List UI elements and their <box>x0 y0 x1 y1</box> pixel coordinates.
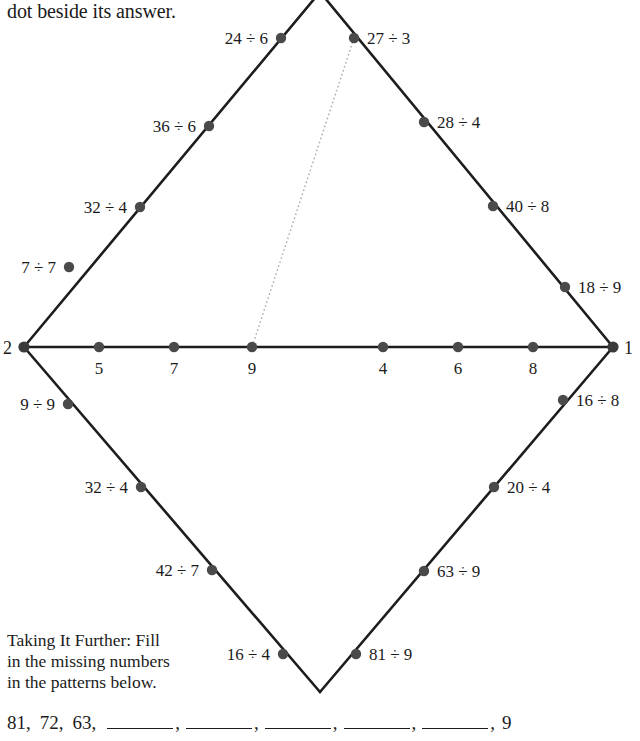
expression-label: 32 ÷ 4 <box>85 478 129 497</box>
pattern-given-number: 63, <box>73 712 97 734</box>
pattern-blank[interactable] <box>422 714 488 729</box>
worksheet-page: dot beside its answer. 24 ÷ 627 ÷ 336 ÷ … <box>0 0 640 741</box>
edge-upper-left <box>24 0 320 347</box>
vertex-label: 1 <box>624 338 633 358</box>
expression-label: 7 ÷ 7 <box>21 258 56 277</box>
answer-label: 9 <box>248 359 257 378</box>
answer-label: 7 <box>170 359 179 378</box>
pattern-given-number: 81, <box>7 712 31 734</box>
expression-label: 20 ÷ 4 <box>507 478 551 497</box>
expression-label: 16 ÷ 8 <box>576 391 619 410</box>
expression-label: 9 ÷ 9 <box>20 395 55 414</box>
answer-label: 4 <box>379 359 388 378</box>
expression-label: 24 ÷ 6 <box>225 29 268 48</box>
pattern-blank[interactable] <box>344 714 410 729</box>
answer-dot[interactable] <box>247 342 257 352</box>
expression-dot[interactable] <box>488 201 498 211</box>
pattern-blank[interactable] <box>265 714 331 729</box>
pattern-blank[interactable] <box>186 714 252 729</box>
expression-label: 32 ÷ 4 <box>84 198 128 217</box>
answer-dot[interactable] <box>378 342 388 352</box>
expression-label: 18 ÷ 9 <box>578 278 621 297</box>
expression-dot[interactable] <box>489 482 499 492</box>
expression-dot[interactable] <box>349 33 359 43</box>
edge-lower-right <box>320 347 613 692</box>
vertex-label: 2 <box>3 338 12 358</box>
expression-dot[interactable] <box>558 395 568 405</box>
expression-dot[interactable] <box>560 282 570 292</box>
expression-label: 42 ÷ 7 <box>156 561 200 580</box>
pattern-comma: , <box>333 712 338 734</box>
answer-dot[interactable] <box>453 342 463 352</box>
expression-dot[interactable] <box>64 262 74 272</box>
pattern-comma: , <box>254 712 259 734</box>
expression-dot[interactable] <box>204 121 214 131</box>
expression-label: 16 ÷ 4 <box>227 645 271 664</box>
expression-label: 36 ÷ 6 <box>153 117 196 136</box>
expression-dot[interactable] <box>278 649 288 659</box>
expression-label: 81 ÷ 9 <box>369 645 412 664</box>
expression-label: 28 ÷ 4 <box>437 113 481 132</box>
further-line-2: in the missing numbers <box>7 651 170 672</box>
further-line-1: Taking It Further: Fill <box>7 630 170 651</box>
answer-dot[interactable] <box>528 342 538 352</box>
number-pattern-row: 81,72,63,,,,,,9 <box>7 712 512 734</box>
pattern-comma: , <box>412 712 417 734</box>
expression-dot[interactable] <box>207 565 217 575</box>
expression-dot[interactable] <box>419 117 429 127</box>
pattern-given-number: 72, <box>40 712 64 734</box>
further-line-3: in the patterns below. <box>7 672 170 693</box>
answer-label: 8 <box>529 359 538 378</box>
expression-label: 40 ÷ 8 <box>506 197 549 216</box>
edge-upper-right <box>320 0 613 347</box>
expression-dot[interactable] <box>63 399 73 409</box>
pattern-blank[interactable] <box>107 714 173 729</box>
answer-label: 6 <box>454 359 463 378</box>
answer-dot[interactable] <box>94 342 104 352</box>
expression-dot[interactable] <box>135 202 145 212</box>
taking-it-further-block: Taking It Further: Fill in the missing n… <box>7 630 170 693</box>
vertex-dot[interactable] <box>607 341 618 352</box>
expression-dot[interactable] <box>351 649 361 659</box>
pattern-end-number: 9 <box>502 712 512 734</box>
pattern-comma: , <box>175 712 180 734</box>
expression-label: 63 ÷ 9 <box>437 562 480 581</box>
pattern-comma: , <box>490 712 495 734</box>
vertex-dot[interactable] <box>18 341 29 352</box>
expression-dot[interactable] <box>419 566 429 576</box>
answer-dot[interactable] <box>169 342 179 352</box>
example-dotted-connector <box>252 38 354 347</box>
expression-label: 27 ÷ 3 <box>367 29 410 48</box>
answer-label: 5 <box>95 359 104 378</box>
expression-dot[interactable] <box>276 33 286 43</box>
expression-dot[interactable] <box>136 482 146 492</box>
